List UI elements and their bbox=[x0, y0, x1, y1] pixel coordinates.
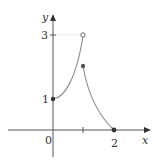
graph: y 3 1 0 2 x bbox=[0, 0, 158, 167]
filled-point-2-0 bbox=[112, 128, 117, 133]
filled-point-0-1 bbox=[51, 97, 55, 101]
open-point-1-3 bbox=[81, 33, 85, 37]
filled-point-1-2 bbox=[81, 64, 85, 68]
y-tick-label-3: 3 bbox=[41, 29, 48, 42]
x-axis-label: x bbox=[142, 134, 149, 147]
y-tick-label-1: 1 bbox=[42, 93, 49, 106]
curve-piece-2 bbox=[83, 66, 114, 130]
curve-piece-1 bbox=[53, 36, 83, 99]
y-axis-arrow-icon bbox=[50, 14, 56, 21]
y-axis-label: y bbox=[41, 11, 49, 24]
x-tick-label-2: 2 bbox=[111, 137, 118, 150]
x-axis-arrow-icon bbox=[144, 127, 151, 133]
origin-label: 0 bbox=[45, 134, 52, 147]
